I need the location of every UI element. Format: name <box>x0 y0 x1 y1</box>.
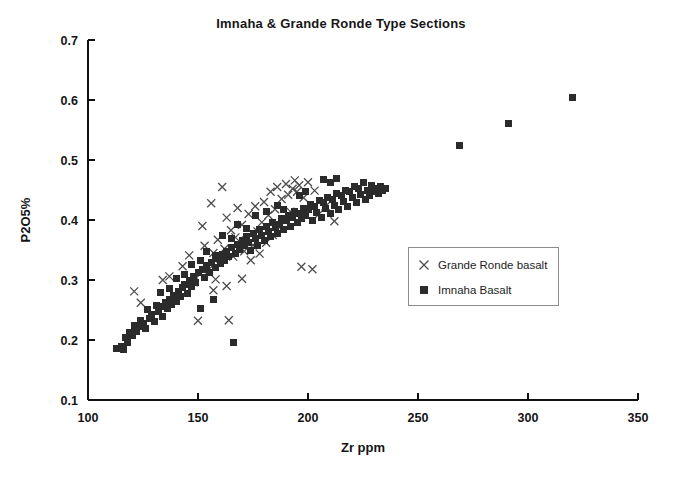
data-point-square <box>344 203 351 210</box>
data-point-cross <box>194 317 202 325</box>
data-point-square <box>309 217 316 224</box>
data-point-square <box>274 230 281 237</box>
data-point-square <box>137 317 144 324</box>
data-point-square <box>302 188 309 195</box>
data-point-square <box>203 248 210 255</box>
data-point-cross <box>238 275 246 283</box>
data-point-cross <box>218 183 226 191</box>
data-point-square <box>144 306 151 313</box>
data-point-square <box>210 296 217 303</box>
data-point-square <box>177 293 184 300</box>
x-axis-title: Zr ppm <box>341 440 385 455</box>
data-point-cross <box>225 316 233 324</box>
data-point-square <box>252 235 259 242</box>
data-point-cross <box>247 256 255 264</box>
data-point-square <box>245 239 252 246</box>
data-point-square <box>318 214 325 221</box>
data-point-cross <box>297 263 305 271</box>
data-point-cross <box>185 251 193 259</box>
data-point-square <box>219 232 226 239</box>
series-imnaha <box>113 94 575 352</box>
data-point-cross <box>311 187 319 195</box>
data-point-square <box>157 289 164 296</box>
data-point-cross <box>308 265 316 273</box>
data-point-square <box>505 120 512 127</box>
data-point-square <box>206 269 213 276</box>
data-point-cross <box>234 204 242 212</box>
data-point-square <box>360 179 367 186</box>
data-point-square <box>247 247 254 254</box>
data-point-cross <box>284 191 292 199</box>
data-point-square <box>151 318 158 325</box>
scatter-chart: Imnaha & Grande Ronde Type Sections 0.10… <box>0 0 682 483</box>
data-point-square <box>142 325 149 332</box>
legend-label: Grande Ronde basalt <box>438 259 548 271</box>
data-point-square <box>173 275 180 282</box>
data-point-square <box>234 221 241 228</box>
data-points <box>113 94 575 352</box>
data-point-cross <box>256 250 264 258</box>
data-point-cross <box>304 178 312 186</box>
data-point-square <box>280 206 287 213</box>
data-point-square <box>153 302 160 309</box>
data-point-square <box>181 271 188 278</box>
data-point-cross <box>330 217 338 225</box>
data-point-square <box>287 223 294 230</box>
data-point-cross <box>207 199 215 207</box>
data-point-square <box>197 257 204 264</box>
x-tick-label: 200 <box>298 411 319 425</box>
x-tick-label: 350 <box>628 411 649 425</box>
data-point-square <box>335 206 342 213</box>
data-point-square <box>192 279 199 286</box>
legend-marker-square <box>420 286 428 294</box>
data-point-square <box>267 233 274 240</box>
chart-legend[interactable]: Grande Ronde basaltImnaha Basalt <box>408 247 558 305</box>
data-point-cross <box>227 226 235 234</box>
y-tick-label: 0.1 <box>61 394 78 408</box>
data-point-cross <box>198 222 206 230</box>
data-point-square <box>243 225 250 232</box>
y-tick-label: 0.6 <box>61 94 78 108</box>
y-axis-title: P2O5% <box>18 197 33 242</box>
plot-area: 0.10.20.30.40.50.60.7100150200250300350Z… <box>0 0 682 483</box>
y-tick-label: 0.4 <box>61 214 78 228</box>
data-point-cross <box>137 299 145 307</box>
data-point-square <box>230 339 237 346</box>
data-point-square <box>296 192 303 199</box>
data-point-cross <box>273 183 281 191</box>
data-point-square <box>212 252 219 259</box>
data-point-cross <box>245 210 253 218</box>
legend-box <box>408 247 558 305</box>
data-point-square <box>456 142 463 149</box>
axis-labels: 0.10.20.30.40.50.60.7100150200250300350Z… <box>18 34 648 456</box>
data-point-square <box>184 290 191 297</box>
data-point-cross <box>223 214 231 222</box>
data-point-square <box>353 199 360 206</box>
data-point-cross <box>212 275 220 283</box>
data-point-cross <box>267 188 275 196</box>
y-tick-label: 0.3 <box>61 274 78 288</box>
data-point-square <box>131 322 138 329</box>
data-point-square <box>274 202 281 209</box>
data-point-square <box>228 235 235 242</box>
x-tick-label: 300 <box>518 411 539 425</box>
x-tick-label: 100 <box>78 411 99 425</box>
data-point-square <box>159 313 166 320</box>
data-point-square <box>166 285 173 292</box>
legend-item[interactable]: Grande Ronde basalt <box>420 259 549 271</box>
data-point-square <box>320 176 327 183</box>
data-point-cross <box>223 282 231 290</box>
data-point-square <box>280 226 287 233</box>
x-tick-label: 250 <box>408 411 429 425</box>
y-tick-label: 0.5 <box>61 154 78 168</box>
data-point-square <box>126 329 133 336</box>
y-tick-label: 0.2 <box>61 334 78 348</box>
data-point-square <box>382 185 389 192</box>
data-point-square <box>197 305 204 312</box>
data-point-square <box>263 208 270 215</box>
data-point-square <box>333 175 340 182</box>
data-point-square <box>327 210 334 217</box>
data-point-cross <box>130 287 138 295</box>
data-point-square <box>188 261 195 268</box>
axes <box>88 40 638 400</box>
